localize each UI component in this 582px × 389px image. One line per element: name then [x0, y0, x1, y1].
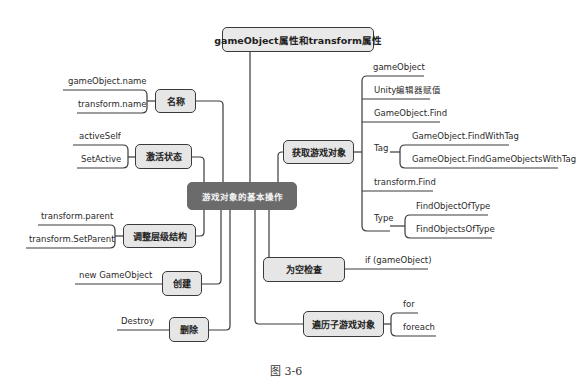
- leaf-transform-parent: transform.parent: [41, 211, 113, 221]
- leaf-for: for: [403, 299, 415, 309]
- center-node: 游戏对象的基本操作: [187, 182, 297, 210]
- root-node: gameObject属性和transform属性: [222, 27, 374, 52]
- leaf-findgameobjectswithtag: GameObject.FindGameObjectsWithTag: [412, 154, 576, 164]
- branch-create: 创建: [162, 271, 202, 296]
- leaf-new-gameobject: new GameObject: [79, 270, 152, 280]
- leaf-gameobject: gameObject: [373, 62, 425, 72]
- leaf-setactive: SetActive: [81, 154, 121, 164]
- branch-delete: 删除: [169, 317, 209, 342]
- leaf-findobjectoftype: FindObjectOfType: [416, 201, 490, 211]
- branch-active: 激活状态: [135, 144, 192, 169]
- branch-traverse: 遍历子游戏对象: [303, 311, 384, 337]
- branch-hierarchy: 调整层级结构: [123, 224, 196, 248]
- leaf-gameobject-find: GameObject.Find: [374, 108, 447, 118]
- branch-nullcheck: 为空检查: [263, 257, 345, 282]
- leaf-gameobject-name: gameObject.name: [68, 76, 147, 86]
- branch-name: 名称: [155, 89, 196, 113]
- leaf-unity-editor-assign: Unity编辑器赋值: [374, 85, 441, 95]
- leaf-transform-find: transform.Find: [374, 177, 436, 187]
- leaf-if-gameobject: if (gameObject): [365, 255, 432, 265]
- leaf-foreach: foreach: [403, 322, 435, 332]
- leaf-transform-setparent: transform.SetParent: [29, 234, 115, 244]
- leaf-findobjectsoftype: FindObjectsOfType: [416, 224, 495, 234]
- leaf-tag: Tag: [374, 143, 388, 153]
- branch-get: 获取游戏对象: [283, 140, 354, 164]
- figure-caption: 图 3-6: [270, 362, 302, 378]
- leaf-activeself: activeSelf: [79, 131, 121, 141]
- leaf-destroy: Destroy: [121, 316, 154, 326]
- leaf-transform-name: transform.name: [78, 99, 146, 109]
- leaf-type: Type: [374, 213, 394, 223]
- leaf-findwithtag: GameObject.FindWithTag: [412, 131, 519, 141]
